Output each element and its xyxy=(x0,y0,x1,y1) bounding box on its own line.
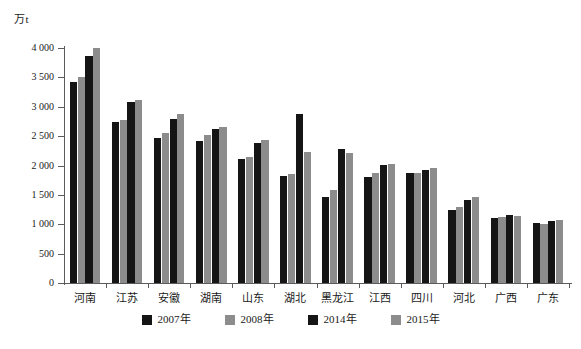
bar xyxy=(372,173,379,283)
x-axis-category-label: 四川 xyxy=(401,292,443,305)
bar xyxy=(154,138,161,283)
plot-area xyxy=(64,48,569,283)
bar xyxy=(430,168,437,283)
legend-label: 2007年 xyxy=(158,314,191,325)
x-axis-tick xyxy=(527,284,528,288)
x-axis-tick xyxy=(485,284,486,288)
bar xyxy=(177,114,184,283)
legend-label: 2015年 xyxy=(407,314,440,325)
bar xyxy=(70,82,77,284)
x-axis-category-label: 河南 xyxy=(64,292,106,305)
y-axis-tick-label: 4 000 xyxy=(32,43,55,53)
bar xyxy=(540,224,547,283)
bar xyxy=(219,127,226,283)
y-axis-tick-label: 3 500 xyxy=(32,72,55,82)
legend-item[interactable]: 2014年 xyxy=(308,314,357,325)
x-axis-tick xyxy=(190,284,191,288)
bar-chart: 万t 05001 0001 5002 0002 5003 0003 5004 0… xyxy=(0,0,581,349)
x-axis-tick xyxy=(359,284,360,288)
bar xyxy=(254,143,261,283)
x-axis-category-label: 河北 xyxy=(443,292,485,305)
x-axis-tick xyxy=(317,284,318,288)
bar xyxy=(135,100,142,283)
bar xyxy=(162,133,169,283)
x-axis-category-label: 江西 xyxy=(359,292,401,305)
bar xyxy=(422,170,429,283)
bar xyxy=(338,149,345,283)
legend-swatch-icon xyxy=(225,315,235,325)
bar xyxy=(464,200,471,283)
x-axis-category-label: 湖北 xyxy=(274,292,316,305)
x-axis-category-label: 广东 xyxy=(527,292,569,305)
legend-item[interactable]: 2015年 xyxy=(391,314,440,325)
bar xyxy=(506,215,513,283)
x-axis-tick xyxy=(443,284,444,288)
legend-swatch-icon xyxy=(142,315,152,325)
bar xyxy=(380,165,387,283)
x-axis-category-label: 广西 xyxy=(485,292,527,305)
y-axis-tick-label: 3 000 xyxy=(32,102,55,112)
bar xyxy=(330,190,337,283)
legend-label: 2014年 xyxy=(324,314,357,325)
bar xyxy=(196,141,203,283)
x-axis-category-label: 山东 xyxy=(232,292,274,305)
y-axis-unit-label: 万t xyxy=(14,12,29,26)
bar xyxy=(112,122,119,283)
legend-item[interactable]: 2008年 xyxy=(225,314,274,325)
bar xyxy=(93,48,100,283)
bar xyxy=(261,140,268,283)
bar xyxy=(170,119,177,284)
x-axis-line xyxy=(64,283,572,284)
x-axis-category-label: 黑龙江 xyxy=(317,292,359,305)
bar xyxy=(78,77,85,283)
bar xyxy=(296,114,303,283)
bar xyxy=(448,210,455,283)
bar xyxy=(280,176,287,284)
y-axis-tick-label: 2 000 xyxy=(32,161,55,171)
x-axis-tick xyxy=(401,284,402,288)
y-axis-tick-label: 500 xyxy=(39,249,54,259)
bar xyxy=(388,164,395,283)
y-axis-tick-label: 2 500 xyxy=(32,131,55,141)
y-axis-tick-label: 1 500 xyxy=(32,190,55,200)
bar xyxy=(322,197,329,283)
bar xyxy=(212,129,219,284)
bar xyxy=(304,152,311,283)
chart-legend: 2007年2008年2014年2015年 xyxy=(0,314,581,325)
x-axis-tick xyxy=(569,284,570,288)
x-axis-category-label: 安徽 xyxy=(148,292,190,305)
y-axis-tick-label: 1 000 xyxy=(32,219,55,229)
legend-swatch-icon xyxy=(308,315,318,325)
x-axis-category-label: 湖南 xyxy=(190,292,232,305)
bar xyxy=(456,207,463,283)
bar xyxy=(548,221,555,283)
legend-item[interactable]: 2007年 xyxy=(142,314,191,325)
bar xyxy=(491,218,498,283)
y-axis-tick xyxy=(58,283,64,284)
bar xyxy=(120,120,127,283)
bar xyxy=(238,159,245,283)
bar xyxy=(472,197,479,283)
figure-caption xyxy=(0,341,581,349)
y-axis-tick-label: 0 xyxy=(49,278,54,288)
bar xyxy=(498,217,505,283)
bar xyxy=(204,135,211,283)
bar xyxy=(288,174,295,283)
bar xyxy=(414,173,421,283)
x-axis-tick xyxy=(232,284,233,288)
x-axis-tick xyxy=(106,284,107,288)
bar xyxy=(127,102,134,283)
bar xyxy=(346,153,353,283)
bar xyxy=(85,56,92,283)
bar xyxy=(514,216,521,283)
bar xyxy=(533,223,540,284)
x-axis-tick xyxy=(274,284,275,288)
x-axis-tick xyxy=(148,284,149,288)
legend-swatch-icon xyxy=(391,315,401,325)
x-axis-category-label: 江苏 xyxy=(106,292,148,305)
legend-label: 2008年 xyxy=(241,314,274,325)
bar xyxy=(406,173,413,283)
bar xyxy=(364,177,371,283)
bar xyxy=(246,157,253,283)
bar xyxy=(556,220,563,283)
